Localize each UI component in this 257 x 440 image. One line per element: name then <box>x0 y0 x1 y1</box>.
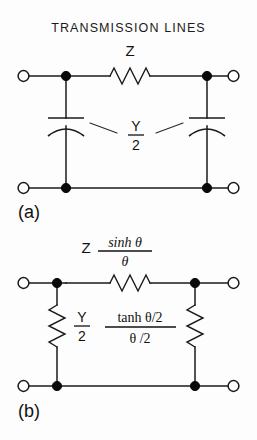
shunt-admittance-label-a: Y 2 <box>128 118 144 153</box>
terminal-a-top-right <box>228 71 239 82</box>
junction-dot-a-top-left <box>61 71 70 80</box>
resistor-series-b-symbol <box>110 275 150 291</box>
series-label-b-numerator: sinh θ <box>108 235 142 250</box>
junction-dot-b-top-right <box>190 278 199 287</box>
terminal-b-top-right <box>228 278 239 289</box>
series-label-b-lead: Z <box>81 239 90 256</box>
caption-b: (b) <box>18 401 40 421</box>
transmission-lines-figure: TRANSMISSION LINES Z <box>0 0 257 440</box>
terminal-a-bottom-left <box>18 183 29 194</box>
shunt-label-b-first-denominator: 2 <box>78 328 86 344</box>
junction-dot-a-top-right <box>202 71 211 80</box>
terminal-a-bottom-right <box>228 183 239 194</box>
resistor-shunt-left-symbol <box>49 305 65 347</box>
terminal-b-bottom-right <box>228 381 239 392</box>
shunt-label-a-denominator: 2 <box>132 137 140 153</box>
junction-dot-a-bottom-right <box>202 183 211 192</box>
resistor-shunt-right-symbol <box>187 305 203 347</box>
shunt-label-b-second-numerator: tanh θ/2 <box>117 310 162 325</box>
terminal-b-bottom-left <box>18 381 29 392</box>
circuit-diagram-canvas: TRANSMISSION LINES Z <box>0 0 257 440</box>
junction-dot-b-bottom-left <box>52 381 61 390</box>
shunt-label-b-first-numerator: Y <box>77 309 87 325</box>
terminal-b-top-left <box>18 278 29 289</box>
junction-dot-a-bottom-left <box>61 183 70 192</box>
shunt-label-b-second-denominator: θ /2 <box>129 331 150 346</box>
leader-line-left <box>90 123 117 133</box>
series-impedance-label-a: Z <box>125 42 134 59</box>
circuit-a: Z Y 2 <box>18 42 239 222</box>
terminal-a-top-left <box>18 71 29 82</box>
shunt-admittance-label-b: Y 2 tanh θ/2 θ /2 <box>74 309 176 346</box>
junction-dot-b-bottom-right <box>190 381 199 390</box>
shunt-label-a-numerator: Y <box>131 118 141 134</box>
series-impedance-label-b: Z sinh θ θ <box>81 235 152 269</box>
series-label-b-denominator: θ <box>122 254 129 269</box>
figure-title: TRANSMISSION LINES <box>51 21 206 35</box>
caption-a: (a) <box>18 202 40 222</box>
circuit-b: Z sinh θ θ Y 2 tan <box>18 235 239 421</box>
leader-line-right <box>156 123 183 133</box>
resistor-z-symbol <box>110 68 150 84</box>
junction-dot-b-top-left <box>52 278 61 287</box>
